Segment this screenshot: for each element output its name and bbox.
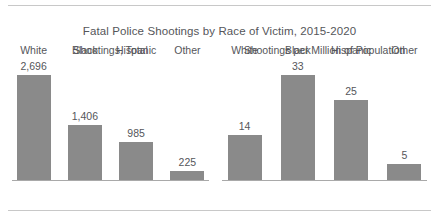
x-tick-label-slot: Other (378, 44, 431, 58)
bar-other[interactable] (170, 171, 204, 180)
bar-slot: 25 (325, 67, 378, 180)
x-tick-label-slot: White (8, 44, 59, 58)
bar-slot: 1,406 (59, 67, 110, 180)
bar-slot: 225 (162, 67, 213, 180)
bar-white[interactable] (228, 135, 262, 180)
bar-value-label: 2,696 (20, 60, 46, 72)
x-tick-label-slot: Hispanic (111, 44, 162, 58)
bar-slot: 985 (111, 67, 162, 180)
top-divider-rule (8, 5, 431, 6)
x-tick-label-other: Other (378, 44, 431, 56)
bar-slot: 2,696 (8, 67, 59, 180)
x-tick-label-black: Black (271, 44, 324, 56)
bar-value-label: 25 (345, 85, 357, 97)
bar-slot: 5 (378, 67, 431, 180)
chart-title: Fatal Police Shootings by Race of Victim… (0, 25, 439, 37)
bar-value-label: 225 (179, 156, 197, 168)
bar-white[interactable] (17, 75, 51, 180)
x-axis-line-left (12, 180, 209, 181)
bar-black[interactable] (68, 125, 102, 180)
x-tick-label-white: White (8, 44, 59, 56)
x-tick-label-hispanic: Hispanic (111, 44, 162, 56)
x-tick-label-slot: White (218, 44, 271, 58)
bar-value-label: 33 (292, 60, 304, 72)
plot-area-right: 14 33 25 5 (218, 68, 431, 181)
bar-black[interactable] (281, 75, 315, 180)
bar-value-label: 14 (239, 120, 251, 132)
x-tick-label-other: Other (162, 44, 213, 56)
x-tick-label-slot: Black (59, 44, 110, 58)
panel-shootings-total: Shootings, Total 2,696 1,406 985 225 Whi… (8, 44, 213, 204)
plot-area-left: 2,696 1,406 985 225 (8, 68, 213, 181)
bar-slot: 33 (271, 67, 324, 180)
x-tick-label-slot: Hispanic (325, 44, 378, 58)
bar-hispanic[interactable] (119, 142, 153, 180)
bottom-divider-rule (8, 210, 431, 211)
x-tick-label-hispanic: Hispanic (325, 44, 378, 56)
bar-other[interactable] (387, 164, 421, 180)
bar-value-label: 5 (401, 149, 407, 161)
x-tick-label-slot: Other (162, 44, 213, 58)
bar-hispanic[interactable] (334, 100, 368, 180)
bar-value-label: 1,406 (72, 110, 98, 122)
chart-figure: Fatal Police Shootings by Race of Victim… (0, 0, 439, 223)
x-tick-label-black: Black (59, 44, 110, 56)
bar-value-label: 985 (127, 127, 145, 139)
panel-shootings-per-million: Shootings per Million of Population 14 3… (218, 44, 431, 204)
x-tick-label-white: White (218, 44, 271, 56)
bar-slot: 14 (218, 67, 271, 180)
x-tick-label-slot: Black (271, 44, 324, 58)
x-axis-line-right (222, 180, 427, 181)
